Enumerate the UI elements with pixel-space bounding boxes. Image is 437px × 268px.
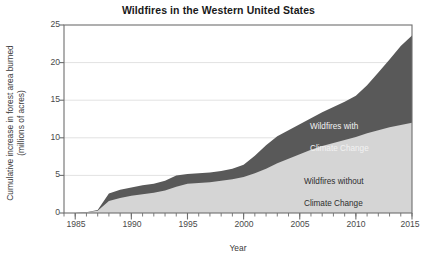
y-axis-label-line1: Cumulative increase in forest area burne… xyxy=(5,45,15,201)
y-axis-label: Cumulative increase in forest area burne… xyxy=(5,23,27,223)
annotation-with-line2: Climate Change xyxy=(310,144,369,153)
annotation-without-line2: Climate Change xyxy=(304,199,363,208)
x-tick-2005: 2005 xyxy=(290,219,309,229)
y-axis-label-line2: (millions of acres) xyxy=(16,90,26,156)
y-axis-ticks: 25 20 15 10 5 0 xyxy=(34,0,60,268)
y-tick-5: 5 xyxy=(34,169,60,179)
y-tick-15: 15 xyxy=(34,94,60,104)
x-tick-1985: 1985 xyxy=(66,219,85,229)
y-axis-tick-marks xyxy=(60,25,65,213)
x-axis-label: Year xyxy=(64,243,412,253)
annotation-without-line1: Wildfires without xyxy=(304,177,364,186)
annotation-wildfires-with-climate-change: Wildfires with Climate Change xyxy=(310,110,369,154)
x-tick-2015: 2015 xyxy=(400,219,419,229)
x-tick-1995: 1995 xyxy=(178,219,197,229)
y-tick-20: 20 xyxy=(34,57,60,67)
annotation-with-line1: Wildfires with xyxy=(310,122,358,131)
x-tick-1990: 1990 xyxy=(122,219,141,229)
y-tick-0: 0 xyxy=(34,207,60,217)
chart-figure: Wildfires in the Western United States C… xyxy=(0,0,437,268)
x-tick-2010: 2010 xyxy=(346,219,365,229)
annotation-wildfires-without-climate-change: Wildfires without Climate Change xyxy=(304,165,364,209)
chart-title: Wildfires in the Western United States xyxy=(0,4,437,16)
y-tick-25: 25 xyxy=(34,19,60,29)
x-tick-2000: 2000 xyxy=(234,219,253,229)
y-tick-10: 10 xyxy=(34,132,60,142)
